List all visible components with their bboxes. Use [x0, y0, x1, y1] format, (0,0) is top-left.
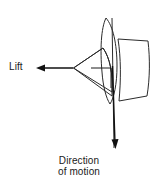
blade-sector-edge-lower: [74, 68, 113, 92]
wing-panel-quad: [118, 39, 149, 101]
direction-label-line-1: Direction: [59, 155, 99, 166]
direction-label-line-2: of motion: [0, 166, 158, 177]
blade-sector-edge-upper: [74, 48, 104, 68]
lift-label: Lift: [9, 61, 23, 72]
motion-arrow-head: [112, 139, 119, 149]
figure-container: Lift Direction of motion: [0, 0, 158, 196]
direction-of-motion-label: Direction of motion: [0, 155, 158, 177]
lift-arrow-head: [36, 65, 45, 72]
